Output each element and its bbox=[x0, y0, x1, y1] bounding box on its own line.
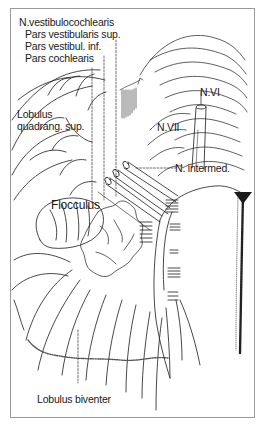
label-lobulus-quadrang-sup-line1: Lobulus bbox=[17, 109, 52, 120]
anatomical-drawing bbox=[0, 0, 264, 428]
nerve-vi bbox=[192, 105, 206, 170]
label-n-vi: N.VI bbox=[200, 87, 220, 98]
dotted-ridge bbox=[28, 340, 168, 360]
label-n-vii: N.VII bbox=[157, 122, 179, 133]
label-pars-cochlearis: Pars cochlearis bbox=[25, 53, 94, 64]
midline-stipple-shadow bbox=[236, 198, 238, 350]
label-lobulus-quadrang-sup-line2: quadrang. sup. bbox=[17, 121, 84, 132]
midline-triangle bbox=[234, 192, 252, 204]
label-n-intermed: N. intermed. bbox=[175, 163, 230, 174]
label-pars-vestibularis-sup: Pars vestibularis sup. bbox=[25, 29, 120, 40]
nerve-vii-hatch bbox=[120, 78, 143, 118]
midline-stipple bbox=[240, 196, 243, 353]
label-lobulus-biventer: Lobulus biventer bbox=[37, 394, 111, 405]
pons-contours bbox=[140, 35, 247, 176]
label-pars-vestibul-inf: Pars vestibul. inf. bbox=[25, 41, 101, 52]
choroid-plexus bbox=[81, 201, 143, 277]
label-n-vestibulocochlearis: N.vestibulocochlearis bbox=[19, 17, 114, 28]
label-flocculus: Flocculus bbox=[51, 200, 100, 211]
brainstem-body bbox=[154, 186, 246, 378]
